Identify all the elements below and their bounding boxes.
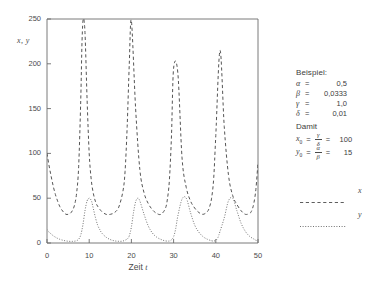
parameter-symbol: α — [296, 80, 305, 88]
parameter-value: 0,5 — [314, 80, 347, 88]
equals-sign: = — [306, 149, 310, 157]
parameter-value: 0,01 — [314, 110, 347, 118]
x-tick-label: 0 — [35, 251, 59, 260]
legend-entry: x — [300, 178, 390, 202]
y-axis-label: x, y — [17, 36, 30, 45]
damit-label: Damit — [296, 123, 390, 131]
initial-value-number: 100 — [332, 136, 352, 144]
legend-label: x — [358, 186, 362, 195]
equals-sign: = — [306, 136, 310, 144]
x-tick-label: 20 — [119, 251, 143, 260]
y-tick-label: 250 — [15, 14, 41, 23]
initial-value-variable: y0 — [296, 148, 302, 158]
y-tick-label: 50 — [15, 193, 41, 202]
initial-value-row: y0=αβ=15 — [296, 146, 390, 159]
parameter-symbol: γ — [296, 100, 305, 108]
fraction-numerator: γ — [316, 132, 321, 139]
legend-label: y — [358, 210, 362, 219]
fraction-numerator: α — [315, 145, 320, 152]
y-tick-label: 0 — [15, 238, 41, 247]
parameter-symbol: δ — [296, 110, 305, 118]
initial-value-variable: x0 — [296, 135, 302, 145]
annotation-heading: Beispiel: — [296, 69, 390, 77]
fraction-denominator: β — [316, 154, 321, 161]
x-tick-label: 30 — [162, 251, 186, 260]
series-y — [47, 197, 258, 242]
data-series-group — [47, 19, 258, 242]
parameter-equals: = — [305, 80, 314, 88]
parameter-equals: = — [305, 90, 314, 98]
initial-value-row: x0=γδ=100 — [296, 133, 390, 146]
x-axis-label-symbol: t — [145, 263, 147, 272]
parameter-symbol: β — [296, 90, 305, 98]
x-axis-label: Zeit t — [129, 262, 148, 272]
x-tick-label: 50 — [246, 251, 270, 260]
parameter-equals: = — [305, 100, 314, 108]
series-x — [47, 19, 258, 215]
x-tick-label: 10 — [77, 251, 101, 260]
initial-values-list: x0=γδ=100y0=αβ=15 — [296, 133, 390, 159]
parameter-value: 0,0333 — [314, 90, 347, 98]
parameter-list: α=0,5β=0,0333γ=1,0δ=0,01 — [296, 80, 390, 120]
legend-line-x — [300, 190, 346, 191]
equals-sign: = — [326, 149, 330, 157]
figure-container: x, y Zeit t 050100150200250 01020304050 … — [0, 0, 390, 281]
parameter-value: 1,0 — [314, 100, 347, 108]
plot-area: x, y Zeit t 050100150200250 01020304050 — [0, 0, 270, 281]
fraction: αβ — [315, 145, 322, 160]
y-tick-label: 200 — [15, 59, 41, 68]
legend-line-y — [300, 214, 346, 215]
legend: xy — [300, 178, 390, 226]
initial-value-number: 15 — [332, 149, 352, 157]
equals-sign: = — [326, 136, 330, 144]
parameter-equals: = — [305, 110, 314, 118]
x-tick-label: 40 — [204, 251, 228, 260]
y-tick-label: 150 — [15, 104, 41, 113]
y-tick-label: 100 — [15, 148, 41, 157]
parameter-row: δ=0,01 — [296, 110, 390, 120]
legend-entry: y — [300, 202, 390, 226]
annotation-panel: Beispiel: α=0,5β=0,0333γ=1,0δ=0,01 Damit… — [296, 69, 390, 159]
